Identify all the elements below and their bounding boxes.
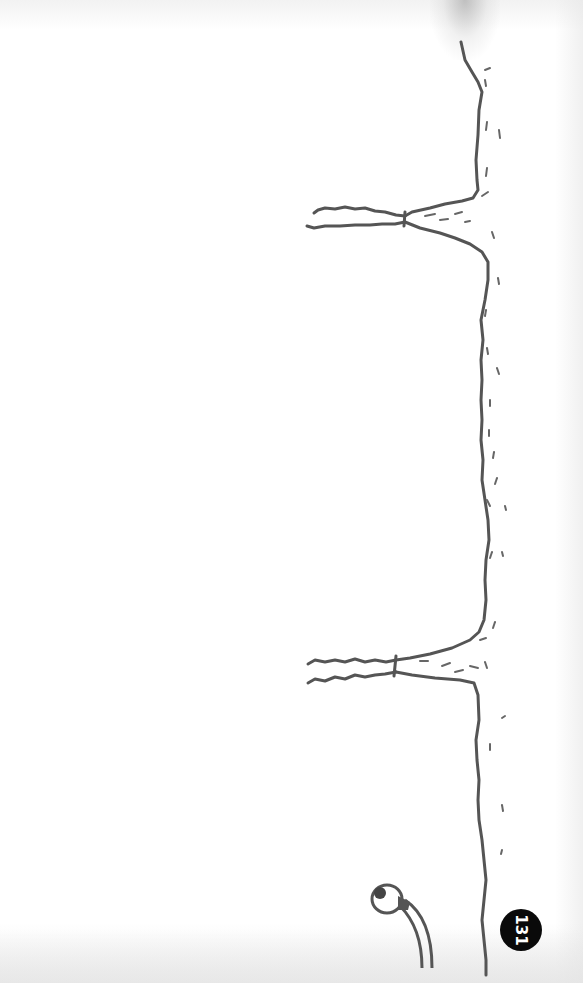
wall-line — [396, 42, 489, 975]
book-page: 131 — [0, 0, 583, 983]
page-number-badge: 131 — [500, 909, 542, 951]
page-number: 131 — [512, 914, 530, 945]
eyeball-creature — [372, 885, 432, 968]
lower-arm — [308, 659, 396, 683]
upper-arm — [307, 207, 405, 228]
illustration — [0, 0, 583, 983]
